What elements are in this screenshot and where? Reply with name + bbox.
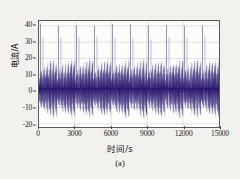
x-tick-mark bbox=[220, 126, 221, 129]
plot-area bbox=[38, 20, 220, 128]
y-tick-mark bbox=[33, 24, 36, 25]
x-tick-label: 15000 bbox=[211, 130, 229, 138]
figure-current-vs-time: 403020100-10-20 电流/A 0300060009000120001… bbox=[0, 0, 240, 179]
x-tick-label: 12000 bbox=[175, 130, 193, 138]
x-tick-mark bbox=[184, 126, 185, 129]
y-tick-label: -10 bbox=[23, 104, 32, 112]
y-tick-label: 40 bbox=[25, 21, 32, 29]
y-tick-mark bbox=[33, 124, 36, 125]
x-tick-mark bbox=[111, 126, 112, 129]
current-signal-series bbox=[39, 21, 219, 127]
x-axis-title: 时间/s bbox=[0, 142, 240, 154]
y-tick-mark bbox=[33, 91, 36, 92]
x-tick-label: 0 bbox=[36, 130, 40, 138]
y-tick-mark bbox=[33, 74, 36, 75]
y-tick-label: 30 bbox=[25, 38, 32, 46]
y-tick-label: -20 bbox=[23, 121, 32, 129]
y-tick-label: 0 bbox=[28, 88, 32, 96]
x-tick-mark bbox=[38, 126, 39, 129]
y-tick-label: 10 bbox=[25, 71, 32, 79]
figure-caption: (a) bbox=[0, 158, 240, 168]
x-tick-label: 9000 bbox=[140, 130, 154, 138]
x-tick-label: 3000 bbox=[67, 130, 81, 138]
y-tick-mark bbox=[33, 41, 36, 42]
y-tick-mark bbox=[33, 58, 36, 59]
y-axis-title: 电流/A bbox=[9, 26, 20, 86]
y-tick-mark bbox=[33, 108, 36, 109]
x-tick-mark bbox=[147, 126, 148, 129]
x-tick-label: 6000 bbox=[104, 130, 118, 138]
y-tick-label: 20 bbox=[25, 54, 32, 62]
x-tick-mark bbox=[74, 126, 75, 129]
